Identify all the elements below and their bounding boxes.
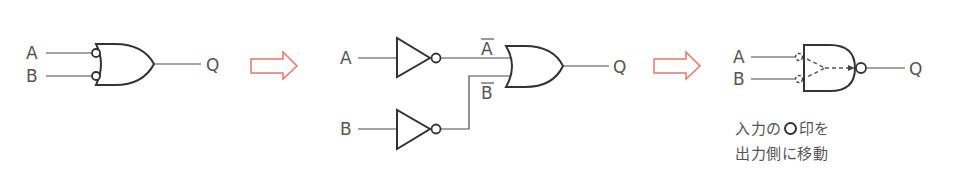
stage2-output-q-label: Q [613, 57, 626, 77]
right-arrow-icon [251, 52, 297, 79]
stage1-input-a-bubble [92, 49, 100, 57]
stage1-or-gate [96, 44, 154, 85]
stage1-input-b-bubble [92, 72, 100, 80]
stage2-input-a-label: A [340, 48, 352, 68]
stage1-input-b-label: B [26, 66, 38, 86]
stage2-not-gate-b [397, 110, 430, 149]
stage3-input-a-label: A [733, 47, 745, 67]
note-line-1: 入力の印を [735, 117, 830, 142]
stage1-output-q-label: Q [206, 55, 219, 75]
note-line-2: 出力側に移動 [735, 142, 830, 167]
stage2-not-b-bubble [432, 125, 441, 134]
stage2-input-b-label: B [340, 119, 352, 139]
stage3-output-bubble [856, 63, 866, 73]
right-arrow-icon [654, 52, 700, 79]
note-line-1-post: 印を [799, 120, 830, 138]
stage1-input-a-label: A [26, 43, 38, 63]
stage2-not-gate-a [397, 38, 430, 77]
stage2-circuit: A A B B Q [340, 38, 626, 149]
stage3-dashed-bubble-b [796, 76, 803, 83]
stage3-circuit: A B Q [733, 45, 922, 91]
stage1-circuit: A B Q [26, 43, 219, 86]
stage3-input-b-label: B [733, 69, 745, 89]
circle-mark-icon [784, 122, 797, 135]
stage2-or-gate [506, 46, 563, 87]
stage3-note: 入力の印を 出力側に移動 [735, 117, 830, 167]
stage2-not-a-bubble [432, 54, 441, 63]
stage2-wire-b-bar [441, 76, 510, 129]
stage3-dashed-bubble-a [796, 54, 803, 61]
stage2-a-bar-label: A [481, 39, 493, 59]
stage2-b-bar-label: B [481, 83, 493, 103]
note-line-1-pre: 入力の [735, 120, 782, 138]
stage3-output-q-label: Q [909, 59, 922, 79]
